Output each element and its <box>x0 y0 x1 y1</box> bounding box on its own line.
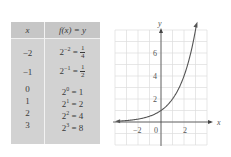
y-axis <box>159 28 163 146</box>
curve-left-arrow-icon <box>115 119 120 123</box>
x-tick-label: 2 <box>183 126 187 135</box>
x-axis-arrow-icon <box>208 120 213 124</box>
x-tick-label: 0 <box>154 126 158 135</box>
curve-right-arrow-icon <box>193 22 197 28</box>
y-axis-label: y <box>157 19 162 28</box>
y-tick-label: 6 <box>153 49 157 58</box>
exponential-curve <box>118 27 196 121</box>
y-axis-arrow-icon <box>159 28 163 33</box>
exponential-graph: x y −2 0 2 2 4 6 <box>0 0 231 157</box>
x-axis-label: x <box>216 118 221 127</box>
y-tick-label: 4 <box>153 72 157 81</box>
x-tick-label: −2 <box>133 126 142 135</box>
y-tick-label: 2 <box>153 95 157 104</box>
